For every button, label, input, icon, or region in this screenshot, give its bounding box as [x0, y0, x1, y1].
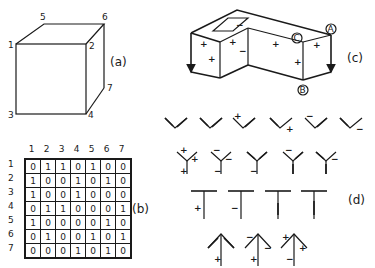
svg-text:−: −: [231, 203, 239, 213]
row-header: 5: [8, 215, 14, 225]
vertex-label-2: 2: [89, 41, 95, 51]
matrix-cell: 0: [86, 216, 101, 230]
vertex-label-5: 5: [40, 12, 46, 22]
matrix-row: 0100101: [25, 230, 131, 244]
svg-text:+: +: [282, 232, 290, 242]
column-header: 7: [114, 144, 129, 154]
matrix-cell: 0: [41, 174, 56, 188]
sign-plus: +: [200, 39, 208, 49]
row-header: 2: [8, 173, 14, 183]
matrix-cell: 0: [25, 244, 41, 259]
column-header: 2: [39, 144, 54, 154]
svg-text:−: −: [356, 124, 364, 134]
sign-minus: −: [239, 46, 247, 56]
svg-text:+: +: [214, 254, 222, 264]
matrix-cell: 1: [56, 159, 71, 174]
labelled-block-diagram: + + + − − + + + A C B (c): [191, 10, 363, 95]
matrix-cell: 0: [101, 202, 116, 216]
matrix-cell: 0: [56, 174, 71, 188]
vertex-label-C: C: [294, 33, 300, 43]
matrix-cell: 1: [86, 230, 101, 244]
sign-plus: +: [294, 57, 302, 67]
matrix-cell: 0: [25, 230, 41, 244]
vertex-label-6: 6: [102, 12, 108, 22]
vertex-label-4: 4: [88, 110, 94, 120]
matrix-row: 0110001: [25, 202, 131, 216]
matrix-cell: 0: [116, 159, 132, 174]
svg-text:+: +: [191, 154, 199, 164]
svg-text:+: +: [299, 243, 307, 253]
matrix-cell: 0: [41, 244, 56, 259]
row-header: 7: [8, 243, 14, 253]
matrix-row: 1001010: [25, 174, 131, 188]
caption-c: (c): [347, 51, 363, 65]
column-header: 1: [24, 144, 39, 154]
matrix-cell: 1: [41, 159, 56, 174]
matrix-cell: 0: [116, 216, 132, 230]
svg-text:−: −: [285, 145, 293, 155]
sign-plus: +: [313, 40, 321, 50]
svg-text:−: −: [246, 232, 254, 242]
svg-text:−: −: [213, 145, 221, 155]
matrix-cell: 0: [56, 188, 71, 202]
svg-text:+: +: [180, 145, 188, 155]
matrix-cell: 0: [41, 188, 56, 202]
matrix-cell: 0: [116, 174, 132, 188]
caption-a: (a): [110, 55, 127, 69]
matrix-cell: 0: [71, 216, 86, 230]
vertex-label-A: A: [328, 24, 335, 34]
svg-text:−: −: [331, 154, 339, 164]
matrix-row: 0110100: [25, 159, 131, 174]
svg-text:−: −: [264, 243, 272, 253]
matrix-cell: 0: [25, 202, 41, 216]
matrix-cell: 1: [71, 174, 86, 188]
matrix-cell: 0: [71, 230, 86, 244]
row-header: 3: [8, 187, 14, 197]
matrix-cell: 1: [116, 230, 132, 244]
matrix-cell: 0: [56, 216, 71, 230]
sign-plus: +: [208, 54, 216, 64]
svg-text:−: −: [306, 111, 314, 121]
junction-catalogue: + + − − +++ −−− −: [165, 111, 365, 266]
svg-text:+: +: [234, 111, 242, 121]
row-header: 1: [8, 159, 14, 169]
caption-b: (b): [132, 202, 149, 216]
matrix-cell: 1: [71, 244, 86, 259]
matrix-cell: 0: [25, 159, 41, 174]
matrix-cell: 1: [71, 188, 86, 202]
matrix-cell: 1: [41, 202, 56, 216]
adjacency-matrix: 0110100100101010010000110001100001001001…: [24, 158, 132, 259]
svg-text:+: +: [180, 166, 188, 176]
svg-text:−: −: [214, 166, 222, 176]
vertex-label-1: 1: [8, 40, 14, 50]
matrix-cell: 0: [116, 188, 132, 202]
row-header: 4: [8, 201, 14, 211]
cube-diagram: 1 2 3 4 5 6 7 (a): [8, 12, 127, 120]
matrix-row: 0001010: [25, 244, 131, 259]
matrix-row: 1000010: [25, 216, 131, 230]
matrix-cell: 1: [25, 188, 41, 202]
svg-text:−: −: [225, 154, 233, 164]
svg-text:+: +: [250, 254, 258, 264]
matrix-cell: 1: [56, 202, 71, 216]
matrix-cell: 0: [71, 159, 86, 174]
matrix-cell: 1: [25, 174, 41, 188]
matrix-cell: 0: [56, 230, 71, 244]
matrix-cell: 1: [25, 216, 41, 230]
matrix-cell: 1: [101, 174, 116, 188]
caption-d: (d): [348, 193, 365, 207]
matrix-cell: 1: [41, 230, 56, 244]
matrix-cell: 0: [56, 244, 71, 259]
matrix-cell: 1: [101, 244, 116, 259]
matrix-row: 1001000: [25, 188, 131, 202]
column-header: 3: [54, 144, 69, 154]
matrix-cell: 0: [116, 244, 132, 259]
svg-text:−: −: [250, 166, 258, 176]
matrix-cell: 0: [86, 244, 101, 259]
matrix-cell: 0: [86, 202, 101, 216]
vertex-label-7: 7: [107, 83, 113, 93]
matrix-cell: 0: [71, 202, 86, 216]
matrix-cell: 0: [101, 188, 116, 202]
sign-plus: +: [229, 37, 237, 47]
column-header: 4: [69, 144, 84, 154]
